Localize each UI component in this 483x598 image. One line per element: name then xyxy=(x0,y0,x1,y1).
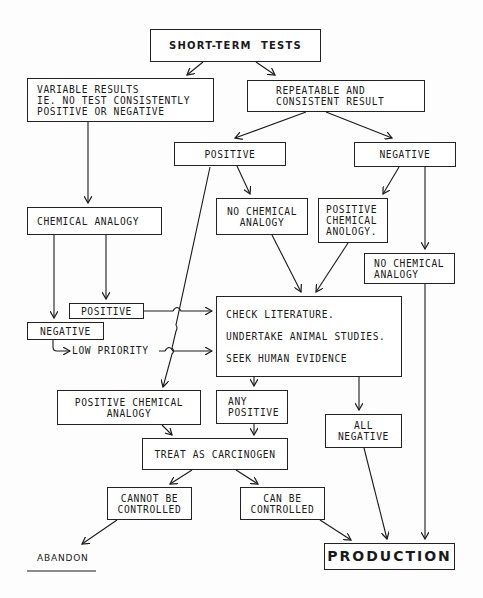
check-literature-line: CHECK LITERATURE. xyxy=(226,309,401,320)
node-short-term-tests: SHORT-TERM TESTS xyxy=(150,29,321,62)
node-no-chemical-analogy-right: NO CHEMICAL ANALOGY xyxy=(364,253,455,284)
node-repeatable-consistent: REPEATABLE AND CONSISTENT RESULT xyxy=(247,80,425,112)
node-can-be-controlled: CAN BE CONTROLLED xyxy=(240,487,325,520)
node-variable-results: VARIABLE RESULTS IE. NO TEST CONSISTENTL… xyxy=(27,78,214,122)
node-no-chemical-analogy-mid: NO CHEMICAL ANALOGY xyxy=(216,198,308,235)
node-positive: POSITIVE xyxy=(174,142,286,166)
node-negative: NEGATIVE xyxy=(354,142,456,167)
node-all-negative: ALL NEGATIVE xyxy=(325,414,402,448)
node-positive-chemical-anology: POSITIVE CHEMICAL ANOLOGY. xyxy=(318,198,388,243)
seek-human-evidence-line: SEEK HUMAN EVIDENCE xyxy=(226,353,401,364)
node-positive-small: POSITIVE xyxy=(69,303,144,319)
node-any-positive: ANY POSITIVE xyxy=(216,390,288,424)
label-abandon: ABANDON xyxy=(37,553,89,564)
node-production: PRODUCTION xyxy=(324,543,455,570)
node-check-literature: CHECK LITERATURE. UNDERTAKE ANIMAL STUDI… xyxy=(216,296,402,377)
label-low-priority: LOW PRIORITY xyxy=(72,345,149,356)
node-chemical-analogy: CHEMICAL ANALOGY xyxy=(27,207,162,235)
undertake-animal-studies-line: UNDERTAKE ANIMAL STUDIES. xyxy=(226,331,401,342)
node-positive-chemical-analogy: POSITIVE CHEMICAL ANALOGY xyxy=(57,390,201,425)
flowchart-canvas: SHORT-TERM TESTS VARIABLE RESULTS IE. NO… xyxy=(0,0,483,598)
node-cannot-be-controlled: CANNOT BE CONTROLLED xyxy=(107,487,192,520)
node-negative-small: NEGATIVE xyxy=(27,322,104,340)
node-treat-as-carcinogen: TREAT AS CARCINOGEN xyxy=(142,438,288,470)
